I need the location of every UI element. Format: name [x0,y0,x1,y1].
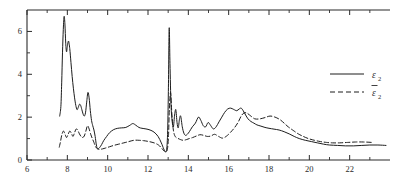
legend-label-subscript: 2 [378,93,381,100]
y-tick-label: 6 [18,26,22,36]
legend-entry-eps2: ε2 [372,70,381,82]
legend-label: ε [372,70,376,80]
legend-label-subscript: 2 [378,75,381,82]
x-tick-label: 12 [144,164,153,174]
x-tick-label: 16 [224,164,233,174]
x-tick-label: 14 [184,164,193,174]
legend-entry-eps2-bar: ε2 [372,86,382,100]
series-line-1 [60,16,386,152]
chart-figure: 68101214161820220246ε2ε2 [0,0,414,187]
x-tick-label: 18 [265,164,274,174]
x-tick-label: 10 [103,164,112,174]
y-tick-label: 4 [18,69,23,79]
y-tick-label: 0 [18,155,22,165]
x-tick-label: 22 [345,164,354,174]
series-line-2 [59,92,372,152]
x-tick-label: 6 [25,164,29,174]
legend-label: ε [372,88,376,98]
x-tick-label: 20 [305,164,314,174]
y-tick-label: 2 [18,112,22,122]
x-tick-label: 8 [65,164,69,174]
spectrum-plot: 68101214161820220246ε2ε2 [0,0,414,187]
